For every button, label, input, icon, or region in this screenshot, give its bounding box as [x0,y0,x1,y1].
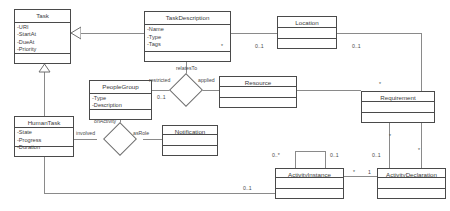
class-location-operations [278,39,336,48]
multiplicity-activitydeclaration-zero-one: 0..1 [372,153,381,158]
class-task-attribute: -DueAt [17,39,68,46]
class-requirement-attributes [362,102,434,113]
class-activitydeclaration-attributes [378,178,445,189]
class-resource-name: Resource [220,77,296,87]
multiplicity-requirement-star-top: * [418,148,420,153]
label-asrole: asRole [133,131,149,136]
connector-activityinstance-selfloop-left [295,151,296,168]
class-task-attributes: -URI -StartAt -DueAt -Priority [15,23,70,54]
class-notification-attributes [163,135,217,146]
multiplicity-activitydeclaration-star-top: * [389,134,391,139]
class-humantask-name: HumanTask [15,117,73,128]
generalization-arrow-humantask [38,64,51,73]
label-restricted: restricted [149,78,170,83]
multiplicity-activitydeclaration-one: 1 [368,170,371,175]
class-peoplegroup-attribute: -Type [92,95,149,102]
class-humantask-attribute: -State [17,129,71,136]
connector-activityinstance-selfloop-right [325,151,326,168]
class-requirement-name: Requirement [362,92,434,102]
class-peoplegroup-attribute: -Description [92,102,149,109]
connector-humantask-bottom-drop [44,157,45,193]
connector-resource-requirement [297,90,361,91]
connector-activityinstance-activitydeclaration [344,176,377,177]
connector-onactivity-notification [143,139,162,140]
class-task-name: Task [15,10,70,23]
label-relatesto: relatesTo [176,66,197,71]
multiplicity-bottom-zero-one: 0..1 [243,186,252,191]
class-task-attribute: -URI [17,24,68,31]
class-notification-operations [163,146,217,155]
class-task-attribute: -Priority [17,46,68,53]
multiplicity-activityinstance-zero-one: 0..1 [330,153,339,158]
class-activityinstance-operations [276,189,343,198]
class-taskdescription-attribute: -Name [147,26,228,33]
multiplicity-taskdescription-location: 0..1 [255,44,264,49]
multiplicity-peoplegroup-diamond: 0..1 [157,95,166,100]
class-humantask-attribute: -Progress [17,137,71,144]
class-taskdescription-attribute: -Type [147,34,228,41]
class-activitydeclaration[interactable]: ActivityDeclaration [377,168,446,199]
class-task[interactable]: Task -URI -StartAt -DueAt -Priority [14,9,71,64]
multiplicity-location-right: 0..1 [352,44,361,49]
class-task-operations [15,54,70,63]
class-peoplegroup-attributes: -Type -Description [90,94,151,110]
class-notification[interactable]: Notification [162,125,218,156]
multiplicity-activityinstance-zero-star: 0..* [272,153,280,158]
class-activityinstance[interactable]: ActivityInstance [275,168,344,199]
label-applied: applied [198,78,215,83]
class-resource-operations [220,98,296,107]
class-humantask-operations [15,147,73,156]
connector-bottom-activityinstance [44,193,281,194]
connector-location-requirement-drop [421,33,422,91]
class-activitydeclaration-name: ActivityDeclaration [378,169,445,178]
class-activityinstance-attributes [276,178,343,189]
connector-humantask-onactivity [74,139,97,140]
class-notification-name: Notification [163,126,217,135]
class-location-name: Location [278,17,336,28]
class-requirement-operations [362,113,434,122]
class-location[interactable]: Location [277,16,337,49]
uml-diagram-canvas: Task -URI -StartAt -DueAt -Priority Task… [0,0,450,211]
class-peoplegroup[interactable]: PeopleGroup -Type -Description [89,80,152,120]
association-diamond-onactivity[interactable] [103,122,137,156]
class-taskdescription-attribute: -Tags [147,41,228,48]
class-peoplegroup-name: PeopleGroup [90,81,151,94]
class-activitydeclaration-operations [378,189,445,198]
class-taskdescription[interactable]: TaskDescription -Name -Type -Tags [144,11,231,62]
generalization-arrow-taskdescription [71,26,81,40]
class-requirement[interactable]: Requirement [361,91,435,123]
class-activityinstance-name: ActivityInstance [276,169,343,178]
class-taskdescription-name: TaskDescription [145,12,230,25]
class-resource-attributes [220,87,296,98]
class-resource[interactable]: Resource [219,76,297,108]
connector-location-requirement [337,33,421,34]
class-humantask-attributes: -State -Progress -Duration [15,128,73,147]
class-location-attributes [278,28,336,39]
multiplicity-requirement-star-mid: * [379,82,381,87]
label-onactivity: onActivity [94,119,116,124]
multiplicity-activityinstance-star: * [353,170,355,175]
connector-activityinstance-selfloop-top [295,151,325,152]
class-humantask[interactable]: HumanTask -State -Progress -Duration [14,116,74,157]
connector-requirement-activitydeclaration [389,123,390,168]
class-taskdescription-attributes: -Name -Type -Tags [145,25,230,52]
class-task-attribute: -StartAt [17,31,68,38]
connector-taskdescription-location [231,33,277,34]
label-involved: involved [76,131,95,136]
class-taskdescription-operations [145,52,230,61]
multiplicity-taskdescription-star: * [221,44,223,49]
